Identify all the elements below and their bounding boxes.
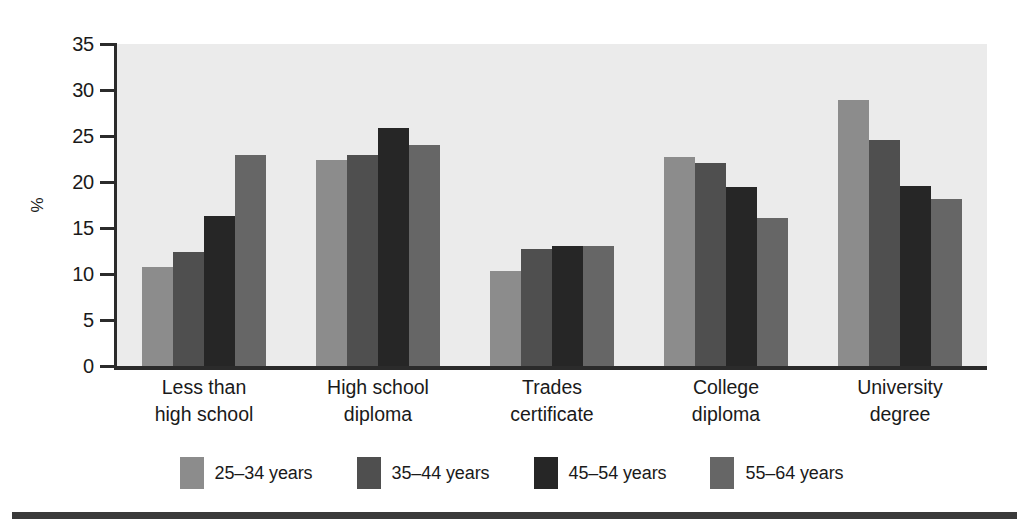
legend-label: 35–44 years bbox=[392, 462, 490, 484]
x-axis-category-labels: Less thanhigh schoolHigh schooldiplomaTr… bbox=[117, 374, 987, 434]
bar bbox=[316, 160, 347, 366]
legend-item[interactable]: 25–34 years bbox=[180, 457, 313, 489]
legend-label: 45–54 years bbox=[569, 462, 667, 484]
y-axis-tick-mark bbox=[100, 227, 114, 230]
bar bbox=[490, 271, 521, 366]
y-axis-tick-mark bbox=[100, 135, 114, 138]
bar bbox=[235, 155, 266, 366]
bar bbox=[173, 252, 204, 366]
legend-swatch bbox=[357, 457, 381, 489]
x-axis-category-label: Universitydegree bbox=[800, 374, 1000, 428]
plot-area bbox=[117, 44, 987, 366]
y-axis-tick-label: 0 bbox=[54, 354, 94, 378]
legend-swatch bbox=[180, 457, 204, 489]
bar-chart-figure: % 35302520151050 Less thanhigh schoolHig… bbox=[0, 0, 1023, 531]
x-axis-line bbox=[114, 366, 987, 370]
bar-group bbox=[490, 44, 614, 366]
y-axis-tick-label: 20 bbox=[54, 170, 94, 194]
chart-legend: 25–34 years35–44 years45–54 years55–64 y… bbox=[0, 455, 1023, 491]
legend-label: 55–64 years bbox=[745, 462, 843, 484]
bar bbox=[204, 216, 235, 366]
x-axis-category-label: Less thanhigh school bbox=[104, 374, 304, 428]
x-axis-category-label: Tradescertificate bbox=[452, 374, 652, 428]
legend-item[interactable]: 55–64 years bbox=[710, 457, 843, 489]
y-axis-tick-label: 5 bbox=[54, 308, 94, 332]
bar bbox=[409, 145, 440, 366]
x-axis-category-label: High schooldiploma bbox=[278, 374, 478, 428]
bar-group bbox=[142, 44, 266, 366]
y-axis-tick-mark bbox=[100, 273, 114, 276]
category-label-line: high school bbox=[104, 401, 304, 428]
y-axis-tick-mark bbox=[100, 181, 114, 184]
bar bbox=[142, 267, 173, 366]
legend-swatch bbox=[534, 457, 558, 489]
bar bbox=[552, 246, 583, 366]
bar bbox=[900, 186, 931, 366]
legend-item[interactable]: 35–44 years bbox=[357, 457, 490, 489]
category-label-line: degree bbox=[800, 401, 1000, 428]
bar-group bbox=[664, 44, 788, 366]
legend-swatch bbox=[710, 457, 734, 489]
y-axis-tick-label: 25 bbox=[54, 124, 94, 148]
category-label-line: Less than bbox=[104, 374, 304, 401]
category-label-line: diploma bbox=[626, 401, 826, 428]
bar-group bbox=[316, 44, 440, 366]
bar bbox=[869, 140, 900, 366]
category-label-line: University bbox=[800, 374, 1000, 401]
y-axis-tick-mark bbox=[100, 365, 114, 368]
bar bbox=[583, 246, 614, 366]
bar bbox=[838, 100, 869, 366]
category-label-line: certificate bbox=[452, 401, 652, 428]
bar bbox=[521, 249, 552, 366]
bar bbox=[931, 199, 962, 366]
bar bbox=[347, 155, 378, 366]
bar bbox=[695, 163, 726, 366]
category-label-line: High school bbox=[278, 374, 478, 401]
x-axis-category-label: Collegediploma bbox=[626, 374, 826, 428]
category-label-line: College bbox=[626, 374, 826, 401]
y-axis-tick-label: 30 bbox=[54, 78, 94, 102]
bottom-rule bbox=[12, 512, 1017, 519]
bar bbox=[378, 128, 409, 366]
y-axis-tick-mark bbox=[100, 89, 114, 92]
bar bbox=[757, 218, 788, 366]
legend-item[interactable]: 45–54 years bbox=[534, 457, 667, 489]
y-axis-tick-mark bbox=[100, 43, 114, 46]
y-axis-tick-label: 35 bbox=[54, 32, 94, 56]
bar bbox=[664, 157, 695, 366]
bar bbox=[726, 187, 757, 366]
y-axis-tick-group: 35302520151050 bbox=[0, 0, 132, 400]
y-axis-tick-label: 15 bbox=[54, 216, 94, 240]
category-label-line: Trades bbox=[452, 374, 652, 401]
y-axis-tick-label: 10 bbox=[54, 262, 94, 286]
bar-group bbox=[838, 44, 962, 366]
y-axis-tick-mark bbox=[100, 319, 114, 322]
category-label-line: diploma bbox=[278, 401, 478, 428]
legend-label: 25–34 years bbox=[215, 462, 313, 484]
